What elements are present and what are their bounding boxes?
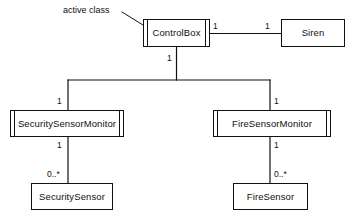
class-box-controlbox[interactable]: ControlBox xyxy=(143,19,210,47)
multiplicity-securitymonitor-bottom: 1 xyxy=(57,141,62,150)
class-box-siren[interactable]: Siren xyxy=(281,19,345,47)
active-class-bar-right xyxy=(119,110,120,138)
class-name-controlbox: ControlBox xyxy=(153,28,201,38)
class-name-firesensor: FireSensor xyxy=(247,192,294,202)
class-name-securitysensormonitor: SecuritySensorMonitor xyxy=(18,119,116,129)
active-class-bar-left xyxy=(217,110,218,138)
multiplicity-siren-left: 1 xyxy=(265,22,270,31)
class-box-securitysensormonitor[interactable]: SecuritySensorMonitor xyxy=(10,110,124,137)
class-name-securitysensor: SecuritySensor xyxy=(39,192,105,202)
multiplicity-controlbox-right: 1 xyxy=(213,22,218,31)
class-name-siren: Siren xyxy=(302,28,325,38)
class-name-firesensormonitor: FireSensorMonitor xyxy=(232,119,312,129)
active-class-bar-left xyxy=(147,19,148,48)
multiplicity-firesensor-top: 0..* xyxy=(274,170,287,179)
multiplicity-securitymonitor-top: 1 xyxy=(57,97,62,106)
uml-class-diagram: active class ControlBox Siren SecuritySe… xyxy=(0,0,351,217)
active-class-bar-right xyxy=(326,110,327,138)
multiplicity-controlbox-bottom: 1 xyxy=(167,54,172,63)
multiplicity-firemonitor-top: 1 xyxy=(274,97,279,106)
annotation-leader-line xyxy=(122,12,143,25)
active-class-bar-right xyxy=(205,19,206,48)
class-box-securitysensor[interactable]: SecuritySensor xyxy=(31,183,113,210)
active-class-annotation: active class xyxy=(63,6,110,15)
active-class-bar-left xyxy=(14,110,15,138)
multiplicity-securitysensor-top: 0..* xyxy=(47,170,60,179)
class-box-firesensor[interactable]: FireSensor xyxy=(233,183,308,210)
class-box-firesensormonitor[interactable]: FireSensorMonitor xyxy=(213,110,331,137)
multiplicity-firemonitor-bottom: 1 xyxy=(274,141,279,150)
